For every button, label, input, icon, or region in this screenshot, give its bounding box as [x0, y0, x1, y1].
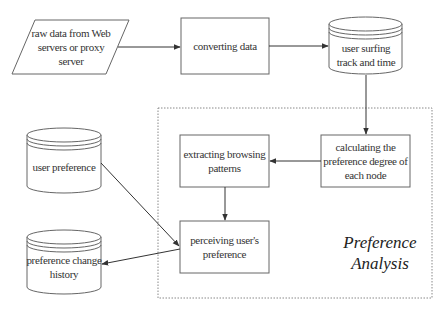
- user-preference-label: user preference: [27, 150, 101, 184]
- user-surfing-label: user surfing track and time: [331, 40, 401, 70]
- edge-perceiving-to-history: [102, 249, 180, 264]
- calculating-label: calculating the preference degree of eac…: [321, 135, 410, 187]
- converting-data-label: converting data: [181, 18, 269, 74]
- preference-history-label: preference change history: [26, 250, 102, 284]
- region-title-line2: Analysis: [325, 253, 435, 274]
- edge-userpref-to-perceiving: [101, 163, 179, 246]
- raw-data-label: raw data from Web servers or proxy serve…: [28, 20, 114, 74]
- region-title-line1: Preference: [325, 232, 435, 253]
- preference-analysis-title: Preference Analysis: [325, 232, 435, 274]
- extracting-label: extracting browsing patterns: [182, 135, 267, 187]
- perceiving-label: perceiving user's preference: [182, 221, 267, 273]
